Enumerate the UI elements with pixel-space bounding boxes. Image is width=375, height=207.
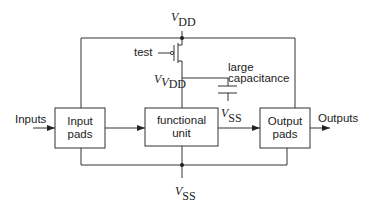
outputs-label: Outputs [318,113,358,125]
vss-bottom-label: VSS [175,182,196,198]
power-gating-diagram [0,0,375,207]
vdd-junction-dot [180,36,184,40]
vvdd-label: VVDD [154,70,186,86]
cap-vss-label: VSS [221,104,242,120]
inputs-label: Inputs [15,114,46,126]
functional-unit-text: functional unit [145,114,218,140]
capacitance-label-line2: capacitance [228,73,289,85]
vss-junction-dot [180,163,184,167]
gate-bubble-icon [170,51,173,54]
vdd-top-label: VDD [171,8,196,24]
test-label: test [134,47,153,59]
input-pads-text: Input pads [55,115,105,141]
output-pads-text: Output pads [260,115,310,141]
